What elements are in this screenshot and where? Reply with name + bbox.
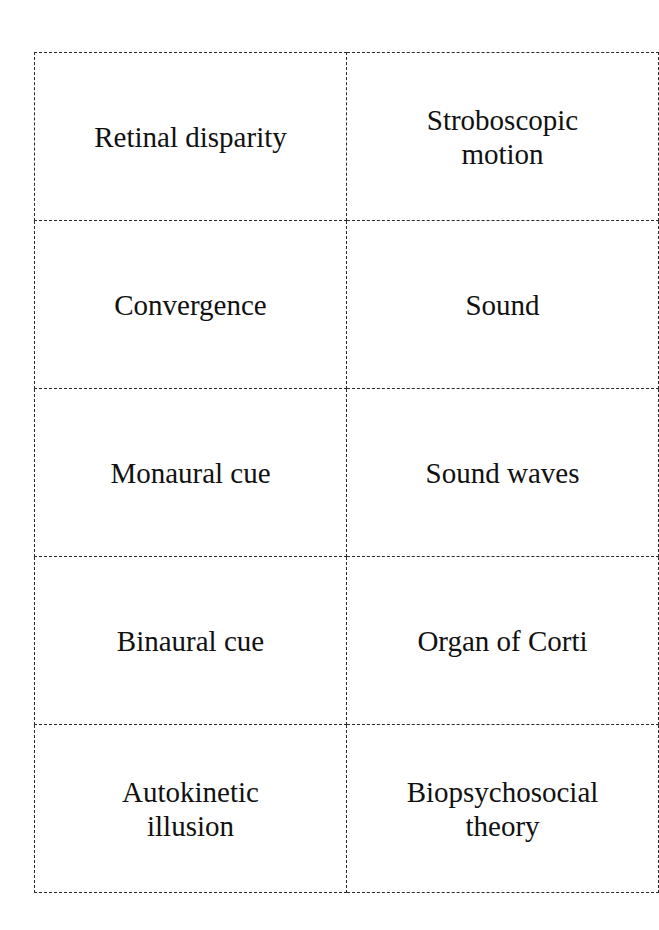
flashcard-term: Sound xyxy=(465,288,539,322)
card-row: Convergence Sound xyxy=(35,221,659,389)
card-row: Monaural cue Sound waves xyxy=(35,389,659,557)
flashcard-term: Autokinetic illusion xyxy=(96,775,286,843)
flashcard-term: Stroboscopic motion xyxy=(403,103,603,171)
flashcard-term: Binaural cue xyxy=(117,624,264,658)
flashcard: Monaural cue xyxy=(35,389,347,557)
flashcard: Convergence xyxy=(35,221,347,389)
card-row: Autokinetic illusion Biopsychosocial the… xyxy=(35,725,659,893)
flashcard-term: Retinal disparity xyxy=(94,120,287,154)
flashcard-term: Monaural cue xyxy=(110,456,270,490)
card-row: Binaural cue Organ of Corti xyxy=(35,557,659,725)
flashcard-term: Sound waves xyxy=(426,456,580,490)
flashcard: Retinal disparity xyxy=(35,53,347,221)
flashcard: Stroboscopic motion xyxy=(347,53,659,221)
flashcard-term: Organ of Corti xyxy=(417,624,587,658)
flashcard: Binaural cue xyxy=(35,557,347,725)
flashcard-term: Convergence xyxy=(114,288,266,322)
flashcard: Autokinetic illusion xyxy=(35,725,347,893)
card-row: Retinal disparity Stroboscopic motion xyxy=(35,53,659,221)
flashcard: Biopsychosocial theory xyxy=(347,725,659,893)
flashcard-grid: Retinal disparity Stroboscopic motion Co… xyxy=(34,52,659,893)
flashcard: Sound xyxy=(347,221,659,389)
flashcard: Sound waves xyxy=(347,389,659,557)
flashcard-term: Biopsychosocial theory xyxy=(383,775,623,843)
flashcard: Organ of Corti xyxy=(347,557,659,725)
